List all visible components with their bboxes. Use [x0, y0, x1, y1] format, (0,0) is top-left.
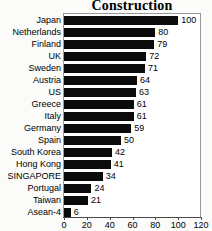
category-label: UK — [0, 50, 63, 62]
bar — [64, 184, 91, 193]
chart-title: Construction — [63, 0, 201, 13]
bar-row: Sweden71 — [0, 62, 212, 74]
category-label: Finland — [0, 38, 63, 50]
bar-value-label: 61 — [137, 98, 147, 110]
x-axis-tick-label: 60 — [127, 220, 137, 231]
bar — [64, 40, 154, 49]
category-label: Netherlands — [0, 26, 63, 38]
bar-value-label: 41 — [114, 158, 124, 170]
bar-value-label: 63 — [139, 86, 149, 98]
bar-value-label: 50 — [124, 134, 134, 146]
category-label: Japan — [0, 14, 63, 26]
bar — [64, 100, 134, 109]
bar — [64, 172, 103, 181]
bar-row: Finland79 — [0, 38, 212, 50]
bar-value-label: 21 — [91, 194, 101, 206]
bar-row: Portugal24 — [0, 182, 212, 194]
x-axis-tick-label: 100 — [171, 220, 186, 231]
bar-value-label: 34 — [106, 170, 116, 182]
bar-value-label: 72 — [149, 50, 159, 62]
bar — [64, 16, 178, 25]
bar-row: Japan100 — [0, 14, 212, 26]
category-label: US — [0, 86, 63, 98]
bar-row: South Korea42 — [0, 146, 212, 158]
bar-value-label: 59 — [134, 122, 144, 134]
category-label: Italy — [0, 110, 63, 122]
bar — [64, 160, 111, 169]
bar-chart: Construction Japan100Netherlands80Finlan… — [0, 0, 212, 231]
bar-row: UK72 — [0, 50, 212, 62]
category-label: Austria — [0, 74, 63, 86]
category-label: Spain — [0, 134, 63, 146]
category-label: Taiwan — [0, 194, 63, 206]
bar-value-label: 64 — [140, 74, 150, 86]
x-axis-tick-label: 40 — [105, 220, 115, 231]
bar-value-label: 71 — [148, 62, 158, 74]
bar — [64, 112, 134, 121]
bar — [64, 88, 136, 97]
bar-row: Austria64 — [0, 74, 212, 86]
category-label: Sweden — [0, 62, 63, 74]
bar — [64, 52, 146, 61]
category-label: Asean-4 — [0, 206, 63, 218]
bar — [64, 76, 137, 85]
category-label: Germany — [0, 122, 63, 134]
x-axis-tick-label: 20 — [82, 220, 92, 231]
bar-value-label: 80 — [158, 26, 168, 38]
bar-row: Netherlands80 — [0, 26, 212, 38]
bar-row: US63 — [0, 86, 212, 98]
bar — [64, 208, 71, 217]
category-label: Hong Kong — [0, 158, 63, 170]
bar-row: SINGAPORE34 — [0, 170, 212, 182]
x-axis-tick-label: 120 — [193, 220, 208, 231]
bar-row: Greece61 — [0, 98, 212, 110]
bar-row: Spain50 — [0, 134, 212, 146]
bar-row: Taiwan21 — [0, 194, 212, 206]
bar-value-label: 61 — [137, 110, 147, 122]
bar — [64, 124, 131, 133]
category-label: SINGAPORE — [0, 170, 63, 182]
category-label: Portugal — [0, 182, 63, 194]
bar-value-label: 100 — [181, 14, 196, 26]
bar — [64, 28, 155, 37]
x-axis-tick-label: 80 — [150, 220, 160, 231]
bar — [64, 196, 88, 205]
bar-value-label: 24 — [94, 182, 104, 194]
bar-rows: Japan100Netherlands80Finland79UK72Sweden… — [0, 14, 212, 218]
bar — [64, 64, 145, 73]
bar-row: Italy61 — [0, 110, 212, 122]
bar-value-label: 42 — [115, 146, 125, 158]
category-label: Greece — [0, 98, 63, 110]
bar-row: Hong Kong41 — [0, 158, 212, 170]
x-axis-tick-label: 0 — [61, 220, 66, 231]
bar — [64, 148, 112, 157]
category-label: South Korea — [0, 146, 63, 158]
bar-value-label: 79 — [157, 38, 167, 50]
bar — [64, 136, 121, 145]
bar-row: Germany59 — [0, 122, 212, 134]
